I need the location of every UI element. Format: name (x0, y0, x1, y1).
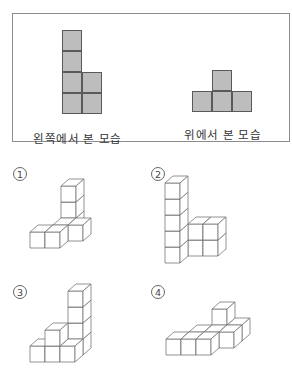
cube-face (181, 339, 196, 355)
cube-face (219, 332, 234, 348)
choice-4-figure[interactable] (0, 0, 292, 377)
cube-face (212, 309, 227, 325)
cube-face (196, 339, 211, 355)
cube-face (166, 339, 181, 355)
